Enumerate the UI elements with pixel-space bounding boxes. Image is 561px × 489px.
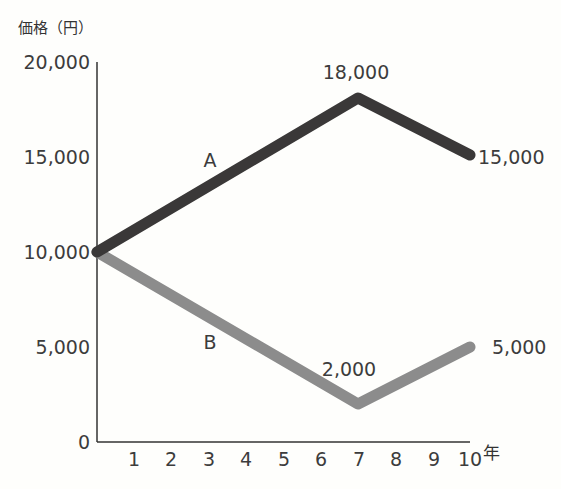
annotation-b-end: 5,000 — [492, 336, 546, 358]
y-tick-5000: 5,000 — [36, 336, 90, 358]
series-a-line — [97, 98, 470, 252]
x-tick-2: 2 — [165, 448, 177, 470]
y-tick-15000: 15,000 — [24, 146, 90, 168]
annotation-b-low: 2,000 — [322, 358, 376, 380]
y-axis-title: 価格（円） — [18, 19, 93, 37]
x-tick-9: 9 — [428, 448, 440, 470]
x-axis-unit: 年 — [483, 443, 500, 463]
x-tick-4: 4 — [240, 448, 252, 470]
series-b-label: B — [203, 331, 216, 353]
line-chart: 価格（円） 0 5,000 10,000 15,000 20,000 1 2 3… — [0, 0, 561, 489]
x-tick-8: 8 — [390, 448, 402, 470]
x-tick-5: 5 — [278, 448, 290, 470]
annotation-a-peak: 18,000 — [323, 61, 389, 83]
annotation-a-end: 15,000 — [478, 146, 544, 168]
x-tick-1: 1 — [128, 448, 140, 470]
y-tick-10000: 10,000 — [24, 241, 90, 263]
x-tick-7: 7 — [353, 448, 365, 470]
x-tick-3: 3 — [203, 448, 215, 470]
x-tick-6: 6 — [315, 448, 327, 470]
series-b-line — [97, 252, 470, 404]
series-a-label: A — [204, 149, 217, 171]
y-tick-20000: 20,000 — [24, 51, 90, 73]
y-tick-0: 0 — [78, 431, 90, 453]
x-tick-10: 10 — [458, 448, 482, 470]
